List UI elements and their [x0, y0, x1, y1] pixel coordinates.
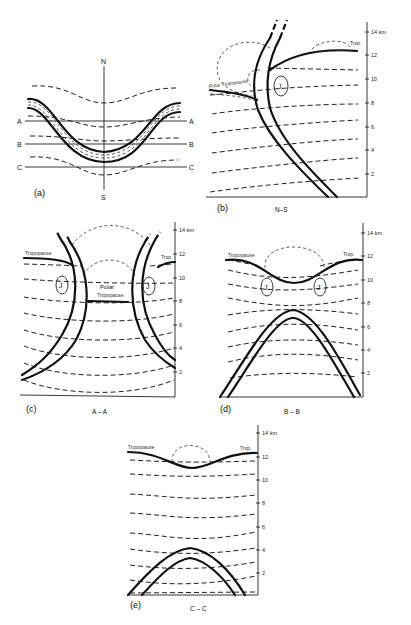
- tick-label: 12: [262, 454, 268, 460]
- polar-tropopause-label: Tropopause: [97, 292, 124, 298]
- polar-label: Polar: [100, 284, 114, 290]
- tick-label: 8: [262, 500, 265, 506]
- trop-label: Trop.: [343, 251, 354, 257]
- panel-b-caption: N–S: [275, 206, 288, 213]
- tick-label: 12: [367, 253, 373, 259]
- axis-unit-label: 14 km: [371, 29, 386, 35]
- isentrope: [130, 460, 256, 462]
- section-c-right-label: C: [189, 164, 194, 171]
- panel-d-label: (d): [220, 404, 231, 414]
- tick-label: 10: [262, 477, 268, 483]
- isentrope: [212, 104, 358, 114]
- panel-b: 14 km 12 10 8 6 4 2 J Polar Tropopause: [206, 20, 386, 213]
- front-ridge-outer: [220, 310, 360, 397]
- isentrope: [24, 279, 174, 283]
- front-extension: [270, 20, 277, 38]
- front-left-inner: [22, 242, 87, 380]
- section-b-right-label: B: [189, 141, 194, 148]
- tick-label: 8: [179, 298, 182, 304]
- polar-tropopause-label: Polar Tropopause: [208, 78, 248, 89]
- panel-e-caption: C – C: [190, 605, 207, 612]
- isentrope: [212, 120, 358, 133]
- tropopause-left: [24, 258, 72, 265]
- tick-label: 6: [367, 324, 370, 330]
- tick-label: 2: [371, 171, 374, 177]
- tropopause-label: Tropopause: [228, 252, 255, 258]
- isentrope: [130, 474, 256, 476]
- panel-c-label: (c): [26, 404, 37, 414]
- tick-label: 6: [262, 524, 265, 530]
- panel-a: N S A A B B C C (a): [17, 58, 194, 201]
- front-extension: [66, 234, 70, 242]
- north-label: N: [101, 58, 106, 65]
- isentrope: [228, 284, 358, 290]
- panel-d-caption: B – B: [284, 408, 300, 415]
- isentrope: [130, 513, 256, 518]
- isentrope: [24, 330, 174, 340]
- isentrope: [228, 270, 358, 278]
- panel-e-label: (e): [130, 600, 141, 610]
- tick-label: 12: [179, 251, 185, 257]
- isentrope: [130, 592, 256, 593]
- stratosphere-dome: [265, 247, 324, 268]
- isentrope: [24, 380, 174, 392]
- panel-c: 14 km 12 10 8 6 4 2 J: [20, 222, 194, 415]
- jet-label: J: [317, 284, 321, 291]
- axis-unit-label: 14 km: [262, 430, 277, 436]
- isentrope: [228, 324, 358, 332]
- jet-label: J: [264, 284, 268, 291]
- tick-label: 10: [371, 76, 377, 82]
- polar-tropopause: [88, 301, 128, 302]
- axis-unit-label: 14 km: [367, 230, 382, 236]
- panel-a-label: (a): [34, 188, 45, 198]
- section-a-right-label: A: [189, 118, 194, 125]
- tropical-tropopause: [270, 50, 357, 70]
- tick-label: 4: [371, 147, 374, 153]
- figure-canvas: N S A A B B C C (a): [0, 0, 411, 625]
- isentrope: [228, 340, 358, 347]
- tick-label: 10: [367, 277, 373, 283]
- tick-label: 4: [262, 547, 265, 553]
- front-extension: [280, 20, 287, 38]
- isentrope: [210, 178, 360, 192]
- front-extension: [56, 230, 60, 238]
- section-a-left-label: A: [17, 118, 22, 125]
- tick-label: 10: [179, 275, 185, 281]
- isentrope: [230, 373, 358, 378]
- tropopause-dome: [312, 41, 350, 49]
- isentrope: [130, 494, 256, 498]
- isentrope: [228, 298, 358, 306]
- front-boundary-upper: [254, 38, 328, 197]
- contour-line: [30, 136, 180, 141]
- panel-d: 14 km 12 10 8 6 4 2 J J Tropopause Trop.…: [219, 223, 382, 415]
- panel-b-label: (b): [217, 203, 228, 213]
- trop-label: Trop.: [350, 40, 361, 46]
- isentrope: [130, 562, 256, 568]
- tick-label: 8: [367, 300, 370, 306]
- tick-label: 6: [371, 124, 374, 130]
- tropopause-label: Tropopause: [128, 444, 155, 450]
- tick-label: 8: [371, 100, 374, 106]
- front-ridge-outer: [128, 548, 245, 595]
- jet-label: J: [278, 83, 282, 90]
- tropopause-label: Tropopause: [25, 250, 52, 256]
- panel-c-caption: A – A: [92, 408, 108, 415]
- front-boundary-lower: [268, 38, 337, 197]
- isentrope: [268, 68, 358, 70]
- stratosphere-dome: [83, 260, 135, 275]
- isentrope: [212, 158, 358, 173]
- tick-label: 12: [371, 52, 377, 58]
- isentrope: [130, 532, 256, 539]
- tick-label: 2: [367, 370, 370, 376]
- front-extension: [155, 232, 160, 240]
- jet-label: J: [59, 282, 63, 289]
- axis-unit-label: 14 km: [179, 227, 194, 233]
- section-c-left-label: C: [17, 164, 22, 171]
- trop-label: Trop.: [161, 254, 172, 260]
- isentrope: [24, 313, 174, 321]
- tick-label: 4: [367, 347, 370, 353]
- baseline-axis: [20, 395, 175, 397]
- tropopause: [128, 452, 257, 468]
- tick-label: 2: [179, 369, 182, 375]
- trop-label: Trop.: [240, 445, 251, 451]
